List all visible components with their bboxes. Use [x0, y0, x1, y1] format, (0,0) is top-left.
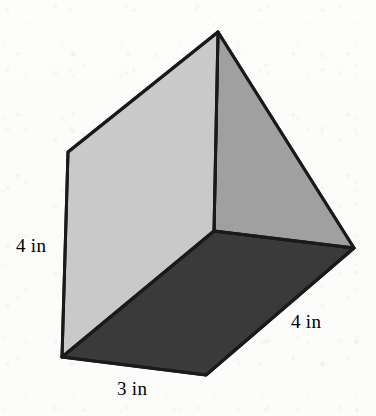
geometry-figure-canvas: 4 in 3 in 4 in — [0, 0, 376, 416]
dimension-label-front-edge: 3 in — [117, 379, 147, 398]
dimension-label-height: 4 in — [16, 236, 46, 255]
rectangular-prism-illustration — [0, 0, 376, 416]
dimension-label-right-edge: 4 in — [291, 312, 321, 331]
